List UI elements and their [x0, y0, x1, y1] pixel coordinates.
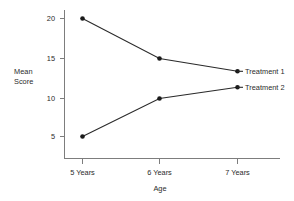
series-label-treatment-2: Treatment 2 [245, 83, 285, 92]
y-tick-label-10: 10 [47, 94, 55, 103]
y-tick-label-20: 20 [47, 14, 55, 23]
chart-canvas: 5 10 15 20 5 Years 6 Years 7 Years Mean … [0, 0, 294, 201]
y-axis-title-line2: Score [14, 77, 33, 86]
x-axis-title: Age [153, 184, 166, 193]
series-line-treatment-2 [83, 87, 238, 136]
series-line-treatment-1 [83, 19, 238, 72]
y-tick-label-5: 5 [51, 132, 55, 141]
data-point-treatment-1-5-years [80, 16, 85, 21]
x-tick-label-6-years: 6 Years [147, 168, 172, 177]
series-label-treatment-1: Treatment 1 [245, 67, 285, 76]
data-point-treatment-2-5-years [80, 134, 85, 139]
data-point-treatment-1-6-years [157, 56, 162, 61]
line-chart: 5 10 15 20 5 Years 6 Years 7 Years Mean … [0, 0, 294, 201]
x-tick-label-5-years: 5 Years [70, 168, 95, 177]
data-point-treatment-2-6-years [157, 96, 162, 101]
y-tick-label-15: 15 [47, 54, 55, 63]
x-tick-label-7-years: 7 Years [225, 168, 250, 177]
y-axis-title-line1: Mean [14, 67, 33, 76]
